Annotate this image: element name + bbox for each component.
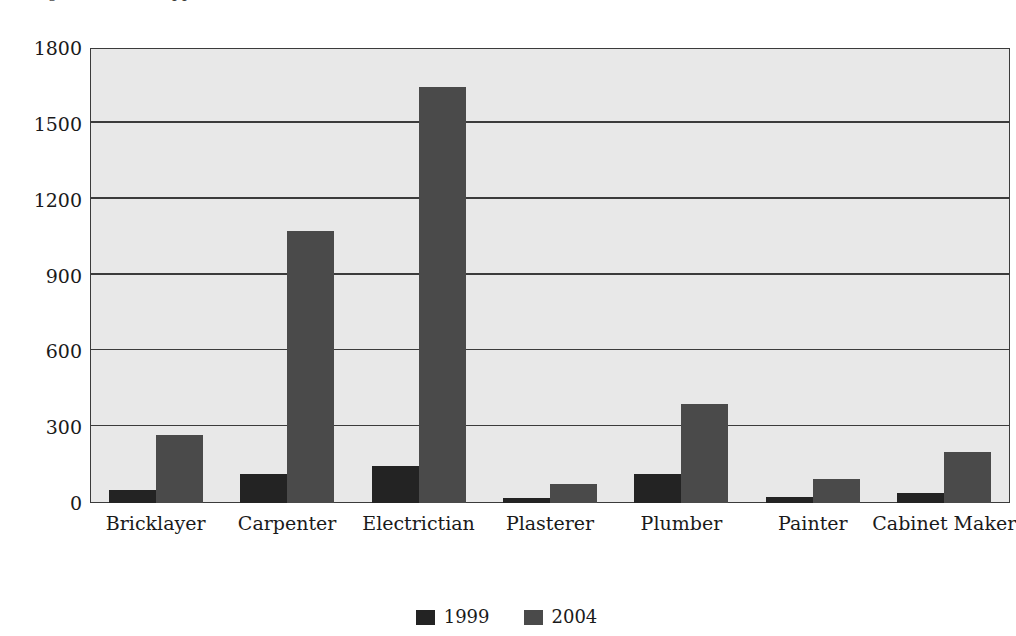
bar-group	[221, 48, 352, 503]
bar-2004-bricklayer	[156, 435, 203, 503]
bar-1999-plasterer	[503, 498, 550, 503]
bar-group	[353, 48, 484, 503]
legend-entry-1999: 1999	[416, 608, 490, 626]
bar-2004-plumber	[681, 404, 728, 503]
bar-1999-bricklayer	[109, 490, 156, 503]
legend-swatch-icon	[416, 610, 435, 625]
y-tick-label: 1200	[0, 190, 82, 209]
x-tick-label: Bricklayer	[106, 512, 206, 536]
x-tick-label: Painter	[778, 512, 848, 536]
bar-group	[484, 48, 615, 503]
bar-group	[747, 48, 878, 503]
bar-1999-electrictian	[372, 466, 419, 503]
y-axis: 0300600900120015001800	[0, 48, 82, 503]
bar-1999-cabinet-maker	[897, 493, 944, 503]
y-tick-label: 1800	[0, 39, 82, 58]
y-tick-label: 900	[0, 266, 82, 285]
y-tick-label: 600	[0, 342, 82, 361]
bar-group	[879, 48, 1010, 503]
legend-label: 2004	[552, 608, 598, 626]
bar-1999-painter	[766, 497, 813, 503]
x-tick-label: Plasterer	[506, 512, 594, 536]
x-tick-label: Plumber	[641, 512, 723, 536]
bar-2004-carpenter	[287, 231, 334, 503]
x-tick-label: Carpenter	[238, 512, 337, 536]
x-tick-label: Electrictian	[362, 512, 475, 536]
y-tick-label: 0	[0, 494, 82, 513]
chart-legend: 19992004	[0, 604, 1013, 630]
bar-group	[616, 48, 747, 503]
bar-1999-carpenter	[240, 474, 287, 503]
legend-swatch-icon	[524, 610, 543, 625]
bar-2004-cabinet-maker	[944, 452, 991, 503]
y-tick-label: 300	[0, 418, 82, 437]
bar-2004-plasterer	[550, 484, 597, 503]
bar-1999-plumber	[634, 474, 681, 503]
x-tick-label: Cabinet Maker	[872, 512, 1016, 536]
legend-entry-2004: 2004	[524, 608, 598, 626]
x-axis: BricklayerCarpenterElectrictianPlasterer…	[90, 512, 1010, 542]
bar-2004-painter	[813, 479, 860, 503]
y-tick-label: 1500	[0, 114, 82, 133]
bar-group	[90, 48, 221, 503]
bars-layer	[90, 48, 1010, 503]
bar-2004-electrictian	[419, 87, 466, 503]
legend-label: 1999	[444, 608, 490, 626]
